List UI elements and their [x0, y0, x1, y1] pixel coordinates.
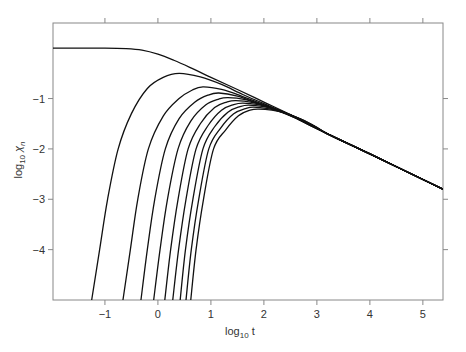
y-tick-label: −3 — [32, 193, 45, 205]
x-tick-label: 1 — [208, 308, 214, 320]
series-line-0 — [53, 48, 443, 189]
data-series — [53, 48, 443, 300]
series-line-5 — [165, 101, 443, 300]
y-tick-label: −4 — [32, 244, 45, 256]
y-tick-label: −1 — [32, 93, 45, 105]
series-line-7 — [180, 105, 443, 300]
series-line-9 — [191, 109, 443, 300]
x-tick-label: 3 — [314, 308, 320, 320]
x-tick-label: −1 — [99, 308, 112, 320]
y-tick-label: −2 — [32, 143, 45, 155]
axis-ticks — [48, 18, 448, 305]
x-tick-label: 4 — [367, 308, 373, 320]
x-tick-label: 5 — [420, 308, 426, 320]
x-tick-label: 0 — [155, 308, 161, 320]
series-line-8 — [186, 107, 443, 300]
x-axis-label: log10 t — [225, 325, 255, 340]
axis-tick-labels: −1012345−1−2−3−4 — [32, 93, 425, 320]
series-line-2 — [123, 87, 443, 300]
chart-canvas: −1012345−1−2−3−4 log10 t log10 χn — [0, 0, 466, 352]
x-tick-label: 2 — [261, 308, 267, 320]
series-line-6 — [173, 103, 443, 300]
y-axis-label: log10 χn — [12, 141, 27, 179]
